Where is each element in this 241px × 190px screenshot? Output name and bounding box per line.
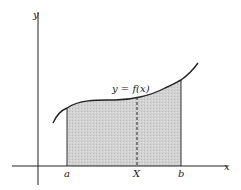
y-axis-label: y	[32, 9, 39, 20]
curve-label: y = f(x)	[111, 83, 150, 94]
area-under-curve-diagram: y x y = f(x) a X b	[0, 0, 241, 190]
x-axis-label: x	[224, 161, 230, 172]
X-label: X	[132, 168, 141, 179]
a-label: a	[64, 168, 70, 179]
b-label: b	[178, 168, 184, 179]
